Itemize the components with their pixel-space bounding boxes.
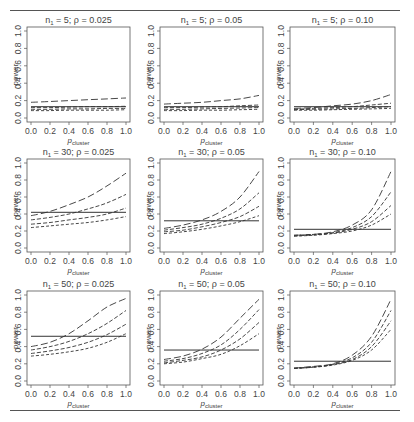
- x-axis-label: pcluster: [66, 136, 89, 146]
- x-axis-label: pcluster: [330, 266, 353, 276]
- x-tick-label: 0.8: [101, 256, 113, 266]
- y-tick-label: 0.0: [146, 112, 156, 124]
- chart-panel: n1 = 5; ρ = 0.050.00.20.40.60.81.0pclust…: [144, 15, 265, 146]
- x-tick-label: 0.4: [327, 126, 339, 136]
- y-axis-label: power: [144, 63, 153, 85]
- plot-frame: [290, 159, 395, 252]
- x-tick-label: 0.2: [177, 126, 189, 136]
- data-series-curve-1: [31, 298, 126, 346]
- y-tick-label: 0.2: [146, 94, 156, 106]
- y-tick-label: 1.0: [13, 289, 23, 301]
- x-tick-label: 0.0: [158, 389, 170, 399]
- panel-title: n1 = 50; ρ = 0.05: [178, 279, 245, 290]
- panel-title: n1 = 30; ρ = 0.10: [309, 147, 376, 158]
- y-tick-label: 0.0: [13, 375, 23, 387]
- x-tick-label: 1.0: [253, 126, 265, 136]
- x-tick-label: 0.6: [215, 256, 227, 266]
- x-tick-label: 0.8: [234, 256, 246, 266]
- y-tick-label: 1.0: [276, 25, 286, 37]
- y-tick-label: 0.2: [13, 225, 23, 237]
- x-tick-label: 0.0: [25, 126, 37, 136]
- y-tick-label: 0.8: [13, 306, 23, 318]
- plot-frame: [160, 27, 263, 122]
- plot-frame: [160, 159, 263, 252]
- x-tick-label: 0.0: [288, 389, 300, 399]
- x-tick-label: 0.4: [196, 256, 208, 266]
- data-series-curve-2: [31, 194, 126, 220]
- x-tick-label: 0.8: [366, 126, 378, 136]
- plot-frame: [290, 291, 395, 385]
- x-tick-label: 1.0: [253, 256, 265, 266]
- data-series-curve-2: [294, 192, 391, 235]
- x-tick-label: 0.8: [101, 126, 113, 136]
- y-tick-label: 0.8: [13, 174, 23, 186]
- x-tick-label: 0.2: [44, 256, 56, 266]
- y-axis-label: power: [11, 194, 20, 216]
- y-axis-label: power: [274, 327, 283, 349]
- x-tick-label: 0.0: [288, 256, 300, 266]
- plot-frame: [27, 159, 130, 252]
- x-tick-label: 0.0: [25, 389, 37, 399]
- x-tick-label: 0.8: [234, 389, 246, 399]
- y-tick-label: 1.0: [146, 25, 156, 37]
- y-tick-label: 0.2: [146, 225, 156, 237]
- plot-frame: [160, 291, 263, 385]
- y-tick-label: 0.0: [276, 375, 286, 387]
- x-axis-label: pcluster: [330, 399, 353, 409]
- x-axis-label: pcluster: [199, 136, 222, 146]
- x-tick-label: 0.6: [215, 389, 227, 399]
- y-tick-label: 0.2: [276, 358, 286, 370]
- x-tick-label: 0.4: [327, 389, 339, 399]
- y-axis-label: power: [11, 63, 20, 85]
- x-tick-label: 0.2: [44, 126, 56, 136]
- y-tick-label: 0.0: [146, 375, 156, 387]
- y-tick-label: 0.8: [146, 174, 156, 186]
- y-tick-label: 0.0: [146, 242, 156, 254]
- x-tick-label: 0.4: [63, 389, 75, 399]
- x-tick-label: 1.0: [253, 389, 265, 399]
- x-tick-label: 1.0: [385, 389, 397, 399]
- x-tick-label: 0.2: [44, 389, 56, 399]
- x-axis-label: pcluster: [199, 266, 222, 276]
- chart-panel: n1 = 50; ρ = 0.100.00.20.40.60.81.0pclus…: [274, 279, 397, 409]
- data-series-curve-1: [31, 98, 126, 102]
- x-tick-label: 1.0: [385, 256, 397, 266]
- x-axis-label: pcluster: [199, 399, 222, 409]
- chart-panel: n1 = 30; ρ = 0.0250.00.20.40.60.81.0pclu…: [11, 147, 132, 276]
- y-axis-label: power: [144, 327, 153, 349]
- y-axis-label: power: [144, 194, 153, 216]
- chart-panel: n1 = 50; ρ = 0.050.00.20.40.60.81.0pclus…: [144, 279, 265, 409]
- x-tick-label: 0.6: [82, 126, 94, 136]
- x-tick-label: 0.4: [63, 256, 75, 266]
- x-tick-label: 0.0: [288, 126, 300, 136]
- data-series-curve-2: [294, 311, 391, 369]
- panel-title: n1 = 5; ρ = 0.10: [312, 15, 374, 26]
- data-series-curve-1: [164, 95, 259, 104]
- x-tick-label: 0.8: [366, 256, 378, 266]
- x-tick-label: 1.0: [120, 256, 132, 266]
- y-tick-label: 0.8: [276, 174, 286, 186]
- x-tick-label: 0.4: [196, 126, 208, 136]
- data-series-curve-3: [31, 208, 126, 224]
- x-tick-label: 0.0: [25, 256, 37, 266]
- x-tick-label: 0.8: [234, 126, 246, 136]
- chart-grid: n1 = 5; ρ = 0.0250.00.20.40.60.81.0pclus…: [0, 0, 414, 422]
- y-tick-label: 1.0: [276, 289, 286, 301]
- x-tick-label: 0.2: [307, 389, 319, 399]
- x-tick-label: 0.2: [307, 126, 319, 136]
- x-tick-label: 0.2: [177, 256, 189, 266]
- x-axis-label: pcluster: [330, 136, 353, 146]
- x-tick-label: 0.4: [327, 256, 339, 266]
- y-tick-label: 0.0: [276, 242, 286, 254]
- panel-title: n1 = 30; ρ = 0.025: [43, 147, 115, 158]
- data-series-curve-3: [31, 324, 126, 353]
- chart-panel: n1 = 5; ρ = 0.0250.00.20.40.60.81.0pclus…: [11, 15, 132, 146]
- panel-title: n1 = 50; ρ = 0.10: [309, 279, 376, 290]
- chart-panel: n1 = 30; ρ = 0.050.00.20.40.60.81.0pclus…: [144, 147, 265, 276]
- x-tick-label: 1.0: [120, 389, 132, 399]
- y-tick-label: 0.0: [276, 112, 286, 124]
- data-series-curve-1: [294, 299, 391, 368]
- y-axis-label: power: [274, 194, 283, 216]
- data-series-curve-1: [294, 172, 391, 236]
- y-tick-label: 1.0: [13, 25, 23, 37]
